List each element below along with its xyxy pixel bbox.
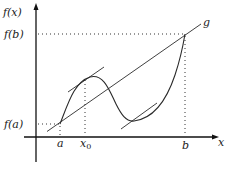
mean-value-theorem-diagram: f(x) f(b) f(a) a x0 b x g [0,0,235,170]
y-axis [34,3,39,162]
y-axis-arrow-icon [34,3,39,10]
f-b-label: f(b) [3,28,24,41]
a-label: a [57,137,64,150]
f-a-label: f(a) [3,118,23,131]
x-axis [24,135,219,140]
secant-line-g [47,24,201,132]
x-axis-label: x [218,136,225,149]
secant-label-g: g [203,16,210,29]
tangent-at-x0 [68,67,104,92]
y-axis-label: f(x) [2,6,22,19]
tangent-near-min [121,103,157,129]
x0-label: x0 [80,137,91,151]
x0-label-sub: 0 [86,142,91,151]
b-label: b [182,139,189,152]
